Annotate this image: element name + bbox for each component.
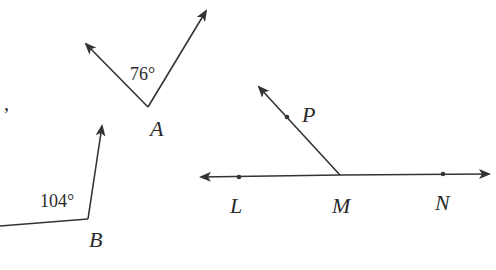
label-m: M — [331, 193, 352, 218]
line-right-ray — [340, 174, 489, 175]
point-n-dot — [441, 172, 446, 177]
angle-a-right-ray — [148, 11, 206, 107]
angle-b: 104° B — [0, 126, 102, 252]
point-l-dot — [237, 175, 242, 180]
line-left-ray — [201, 175, 340, 177]
angle-b-up-ray — [88, 126, 102, 219]
label-p: P — [301, 102, 315, 127]
point-p-dot — [285, 115, 290, 120]
ray-mp — [259, 87, 340, 175]
angle-a-measure: 76° — [130, 64, 155, 84]
angle-b-measure: 104° — [40, 191, 74, 211]
geometry-diagram: , 76° A 104° B L M N P — [0, 0, 496, 270]
stray-comma: , — [4, 92, 9, 114]
label-n: N — [434, 190, 451, 215]
label-l: L — [229, 193, 242, 218]
angle-b-left-ray — [0, 219, 88, 226]
angle-a-vertex-label: A — [148, 116, 164, 141]
angle-a: 76° A — [86, 11, 206, 141]
line-lmn-figure: L M N P — [201, 87, 489, 218]
angle-b-vertex-label: B — [89, 227, 102, 252]
